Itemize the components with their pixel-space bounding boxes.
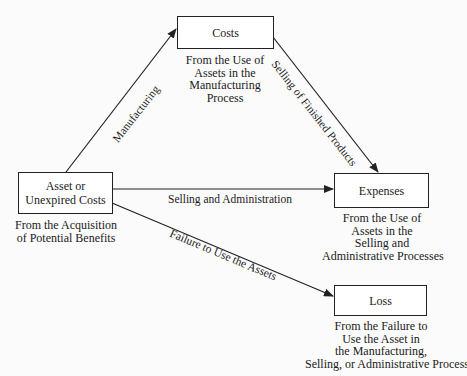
caption-line: Selling, or Administrative Process [305, 358, 457, 371]
caption-line: From the Failure to [305, 320, 457, 333]
caption-line: From the Acquisition [12, 219, 120, 232]
node-expenses-caption: From the Use of Assets in the Selling an… [322, 212, 442, 262]
caption-line: From the Use of [175, 54, 275, 67]
node-costs: Costs [177, 16, 274, 49]
node-loss-title: Loss [369, 294, 392, 308]
caption-line: the Manufacturing, [305, 345, 457, 358]
node-costs-title: Costs [212, 26, 239, 40]
node-asset: Asset or Unexpired Costs [18, 172, 113, 214]
caption-line: Administrative Processes [322, 250, 442, 263]
node-costs-caption: From the Use of Assets in the Manufactur… [175, 54, 275, 104]
arrow-asset-to-costs [66, 29, 176, 172]
arrow-costs-to-expenses [273, 37, 378, 172]
caption-line: From the Use of [322, 212, 442, 225]
node-asset-title-line1: Asset or [46, 179, 86, 193]
edge-label-selling-administration: Selling and Administration [168, 193, 292, 205]
caption-line: Selling and [322, 237, 442, 250]
caption-line: of Potential Benefits [12, 232, 120, 245]
node-loss: Loss [334, 285, 427, 316]
node-expenses: Expenses [334, 173, 429, 208]
node-loss-caption: From the Failure to Use the Asset in the… [305, 320, 457, 370]
node-asset-title-line2: Unexpired Costs [25, 193, 105, 207]
node-expenses-title: Expenses [359, 184, 404, 198]
caption-line: Process [175, 92, 275, 105]
node-asset-caption: From the Acquisition of Potential Benefi… [12, 219, 120, 244]
caption-line: Manufacturing [175, 79, 275, 92]
